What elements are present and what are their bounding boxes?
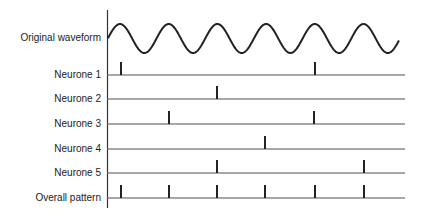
row-label-neurone-3: Neurone 3	[54, 118, 101, 130]
spike-train-row	[108, 185, 406, 198]
row-label-neurone-5: Neurone 5	[54, 167, 101, 179]
spike-train-row	[108, 136, 406, 149]
waveform-label: Original waveform	[20, 32, 101, 44]
spike-train-row	[108, 62, 406, 75]
spike-train-row	[108, 86, 406, 99]
spike-train-row	[108, 160, 406, 173]
original-waveform-curve	[108, 24, 399, 53]
neurone-rows	[108, 62, 406, 198]
spike-train-row	[108, 111, 406, 124]
row-label-overall-pattern: Overall pattern	[35, 192, 101, 204]
volley-principle-diagram: Original waveform Neurone 1 Neurone 2 Ne…	[0, 0, 423, 216]
row-label-neurone-1: Neurone 1	[54, 69, 101, 81]
row-label-neurone-4: Neurone 4	[54, 143, 101, 155]
row-label-neurone-2: Neurone 2	[54, 93, 101, 105]
